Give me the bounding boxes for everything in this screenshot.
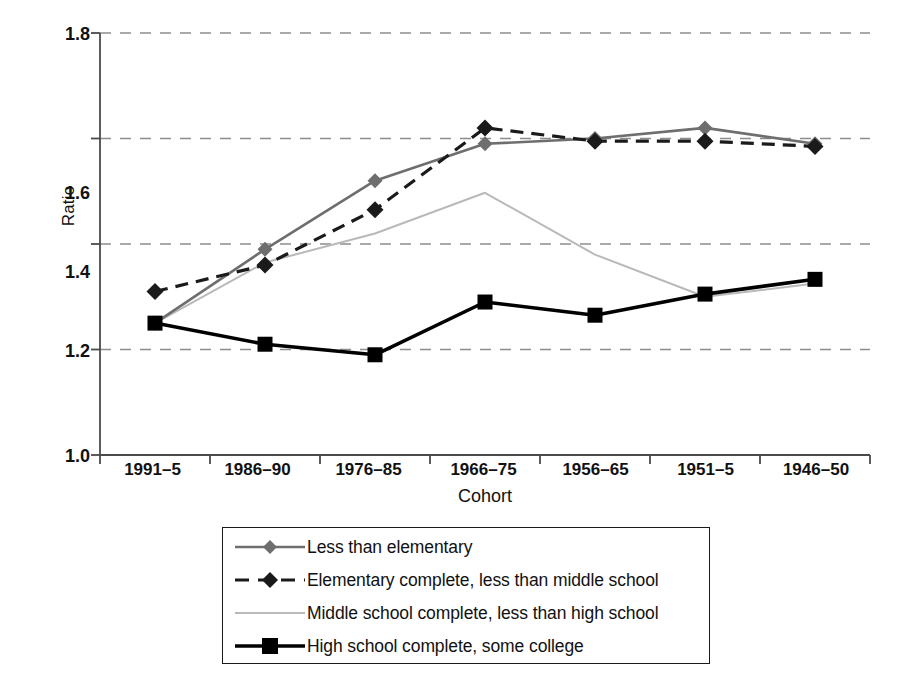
- legend-item-less-than-elementary[interactable]: Less than elementary: [223, 532, 709, 562]
- legend-label-series3: Middle school complete, less than high s…: [307, 603, 659, 624]
- data-point-marker: [368, 347, 383, 362]
- data-point-marker: [148, 316, 163, 331]
- series-line: [155, 279, 815, 355]
- legend: Less than elementary Elementary complete…: [222, 527, 710, 664]
- plot-area: [0, 0, 897, 500]
- data-point-marker: [588, 308, 603, 323]
- data-point-marker: [147, 283, 164, 300]
- data-point-marker: [258, 337, 273, 352]
- data-point-marker: [367, 201, 384, 218]
- legend-item-high-school-complete[interactable]: High school complete, some college: [223, 631, 709, 661]
- legend-swatch-series2: [233, 568, 307, 592]
- chart-figure: Ratio 1.8 1.6 1.2 1.4 1.0 1991–5 1986–90…: [0, 0, 897, 692]
- legend-item-middle-school-complete[interactable]: Middle school complete, less than high s…: [223, 598, 709, 628]
- data-point-marker: [368, 173, 383, 188]
- data-point-marker: [587, 133, 604, 150]
- legend-label-series4: High school complete, some college: [307, 636, 584, 657]
- legend-swatch-series4: [233, 634, 307, 658]
- data-point-marker: [257, 257, 274, 274]
- data-point-marker: [698, 287, 713, 302]
- data-point-marker: [808, 272, 823, 287]
- series-line: [155, 128, 815, 292]
- data-point-marker: [807, 138, 824, 155]
- legend-label-series1: Less than elementary: [307, 537, 472, 558]
- data-point-marker: [478, 295, 493, 310]
- data-point-marker: [697, 133, 714, 150]
- legend-label-series2: Elementary complete, less than middle sc…: [307, 570, 659, 591]
- legend-swatch-series3: [233, 601, 307, 625]
- legend-item-elementary-complete[interactable]: Elementary complete, less than middle sc…: [223, 565, 709, 595]
- legend-swatch-series1: [233, 535, 307, 559]
